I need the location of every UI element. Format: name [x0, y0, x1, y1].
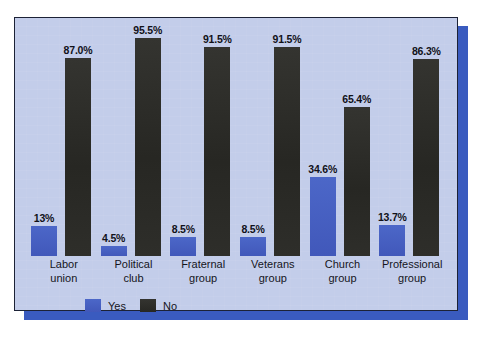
category-label-line: group: [308, 272, 378, 286]
chart-legend: YesNo: [85, 299, 177, 312]
bar-value-label: 8.5%: [241, 223, 264, 235]
bar-no[interactable]: 65.4%: [344, 107, 370, 256]
bar-yes[interactable]: 13.7%: [379, 225, 405, 256]
bar-group: 13.7%86.3%: [377, 28, 447, 256]
bar-no[interactable]: 87.0%: [65, 58, 91, 256]
bar-group-bars: 4.5%95.5%: [99, 28, 169, 256]
chart-panel: 13%87.0%4.5%95.5%8.5%91.5%8.5%91.5%34.6%…: [14, 17, 458, 311]
category-label-line: Professional: [377, 258, 447, 272]
bar-value-label: 91.5%: [273, 33, 302, 45]
bar-yes[interactable]: 8.5%: [240, 237, 266, 256]
bar-value-label: 13.7%: [378, 211, 407, 223]
category-label: Veteransgroup: [238, 258, 308, 285]
bar-value-label: 34.6%: [308, 163, 337, 175]
bar-yes[interactable]: 4.5%: [101, 246, 127, 256]
bar-value-label: 4.5%: [102, 232, 125, 244]
bar-value-label: 86.3%: [412, 45, 441, 57]
bar-group: 8.5%91.5%: [168, 28, 238, 256]
bar-group-bars: 34.6%65.4%: [308, 28, 378, 256]
category-label-line: Political: [99, 258, 169, 272]
bar-yes[interactable]: 8.5%: [170, 237, 196, 256]
category-label-line: group: [377, 272, 447, 286]
plot-area: 13%87.0%4.5%95.5%8.5%91.5%8.5%91.5%34.6%…: [29, 28, 447, 256]
bar-group-bars: 8.5%91.5%: [238, 28, 308, 256]
legend-swatch-icon: [140, 299, 156, 312]
bar-group: 34.6%65.4%: [308, 28, 378, 256]
bar-group: 8.5%91.5%: [238, 28, 308, 256]
bar-group-bars: 13%87.0%: [29, 28, 99, 256]
category-label: Politicalclub: [99, 258, 169, 285]
legend-item-no[interactable]: No: [140, 299, 177, 312]
legend-label: Yes: [108, 300, 126, 312]
bar-no[interactable]: 91.5%: [204, 47, 230, 256]
category-label-line: union: [29, 272, 99, 286]
category-label-line: Labor: [29, 258, 99, 272]
legend-item-yes[interactable]: Yes: [85, 299, 126, 312]
bar-value-label: 65.4%: [342, 93, 371, 105]
bar-group: 13%87.0%: [29, 28, 99, 256]
category-label-line: group: [168, 272, 238, 286]
category-label-line: club: [99, 272, 169, 286]
bar-value-label: 91.5%: [203, 33, 232, 45]
bar-value-label: 87.0%: [64, 44, 93, 56]
bar-value-label: 13%: [34, 212, 54, 224]
bar-no[interactable]: 86.3%: [413, 59, 439, 256]
bar-group-bars: 13.7%86.3%: [377, 28, 447, 256]
category-label: Laborunion: [29, 258, 99, 285]
category-label: Fraternalgroup: [168, 258, 238, 285]
category-label: Churchgroup: [308, 258, 378, 285]
bar-yes[interactable]: 13%: [31, 226, 57, 256]
category-label-line: group: [238, 272, 308, 286]
bar-group: 4.5%95.5%: [99, 28, 169, 256]
bar-value-label: 8.5%: [172, 223, 195, 235]
bar-value-label: 95.5%: [133, 24, 162, 36]
bar-group-bars: 8.5%91.5%: [168, 28, 238, 256]
bar-yes[interactable]: 34.6%: [310, 177, 336, 256]
legend-swatch-icon: [85, 299, 101, 312]
bar-no[interactable]: 95.5%: [135, 38, 161, 256]
category-label: Professionalgroup: [377, 258, 447, 285]
category-label-line: Church: [308, 258, 378, 272]
page-root: 13%87.0%4.5%95.5%8.5%91.5%8.5%91.5%34.6%…: [0, 0, 488, 347]
category-label-line: Veterans: [238, 258, 308, 272]
category-axis-labels: LaborunionPoliticalclubFraternalgroupVet…: [29, 258, 447, 296]
legend-label: No: [163, 300, 177, 312]
category-label-line: Fraternal: [168, 258, 238, 272]
bar-no[interactable]: 91.5%: [274, 47, 300, 256]
